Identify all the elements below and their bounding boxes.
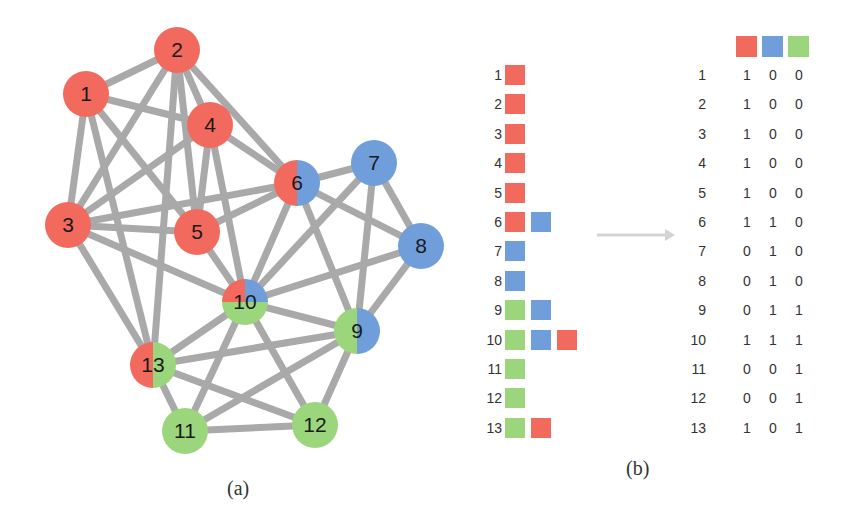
swatch-red [505,65,525,85]
matrix-cell: 0 [760,420,786,436]
swatch-red [531,418,551,438]
node-id: 7 [478,243,502,259]
matrix-cell: 1 [734,214,760,230]
node-id: 9 [478,302,502,318]
matrix-cell: 0 [734,361,760,377]
matrix-row: 6110 [682,211,822,233]
matrix-node-id: 3 [682,126,706,142]
caption-b: (b) [626,457,649,480]
matrix-node-id: 12 [682,390,706,406]
matrix-cell: 0 [760,390,786,406]
swatch-red [557,330,577,350]
matrix-node-id: 4 [682,155,706,171]
matrix-row: 1100 [682,64,822,86]
swatch-green [505,300,525,320]
node-label: 12 [303,413,326,436]
edge-7-9 [357,163,374,331]
node-6: 6 [274,160,320,206]
matrix-cell: 1 [734,420,760,436]
membership-row: 1 [478,64,531,86]
membership-row: 3 [478,123,531,145]
matrix-row: 3100 [682,123,822,145]
matrix-cell: 0 [786,126,812,142]
matrix-cell: 1 [734,155,760,171]
matrix-cell: 1 [786,420,812,436]
node-5: 5 [174,209,220,255]
matrix-cell: 0 [786,155,812,171]
matrix-row: 7010 [682,240,822,262]
node-2: 2 [154,27,200,73]
matrix-cell: 1 [786,302,812,318]
matrix-cell: 0 [734,302,760,318]
matrix-node-id: 10 [682,332,706,348]
node-label: 11 [174,419,196,442]
node-id: 13 [478,420,502,436]
matrix-cell: 1 [734,126,760,142]
matrix-row: 4100 [682,152,822,174]
membership-row: 2 [478,93,531,115]
node-10: 10 [222,279,268,325]
matrix-node-id: 13 [682,420,706,436]
matrix-node-id: 7 [682,243,706,259]
node-id: 1 [478,67,502,83]
matrix-cell: 1 [760,273,786,289]
matrix-node-id: 5 [682,185,706,201]
swatch-green [505,330,525,350]
swatch-blue [531,300,551,320]
membership-row: 5 [478,182,531,204]
matrix-cell: 0 [734,243,760,259]
matrix-cell: 1 [786,332,812,348]
matrix-cell: 0 [760,96,786,112]
header-swatch-red [736,36,757,57]
matrix-node-id: 8 [682,273,706,289]
matrix-cell: 0 [786,214,812,230]
node-7: 7 [351,140,397,186]
matrix-cell: 1 [734,96,760,112]
matrix-row: 8010 [682,270,822,292]
matrix-cell: 0 [734,390,760,406]
network-graph: 12345678910111213 [0,0,480,470]
matrix-node-id: 1 [682,67,706,83]
node-11: 11 [162,408,208,454]
matrix-cell: 1 [786,390,812,406]
membership-row: 12 [478,387,531,409]
matrix-node-id: 2 [682,96,706,112]
node-8: 8 [398,223,444,269]
node-label: 3 [62,213,74,236]
swatch-blue [505,241,525,261]
matrix-cell: 1 [760,214,786,230]
node-label: 9 [351,319,363,342]
swatch-red [505,153,525,173]
swatch-blue [531,212,551,232]
node-label: 6 [291,171,303,194]
swatch-red [505,212,525,232]
node-id: 5 [478,185,502,201]
matrix-cell: 0 [734,273,760,289]
swatch-red [505,183,525,203]
swatch-green [505,359,525,379]
swatch-green [505,418,525,438]
membership-row: 9 [478,299,557,321]
arrow-icon [597,228,677,242]
graph-edges [68,50,421,431]
matrix-cell: 0 [760,155,786,171]
matrix-header [736,36,814,57]
membership-row: 8 [478,270,531,292]
matrix-cell: 0 [786,185,812,201]
node-label: 8 [415,234,427,257]
matrix-cell: 1 [734,67,760,83]
swatch-red [505,124,525,144]
membership-row: 4 [478,152,531,174]
matrix-cell: 0 [760,361,786,377]
matrix-row: 9011 [682,299,822,321]
matrix-cell: 0 [786,243,812,259]
caption-a: (a) [227,477,249,500]
node-id: 3 [478,126,502,142]
matrix-cell: 0 [760,67,786,83]
node-id: 8 [478,273,502,289]
matrix-cell: 0 [786,96,812,112]
node-label: 1 [80,82,92,105]
node-id: 4 [478,155,502,171]
node-id: 6 [478,214,502,230]
node-label: 2 [171,38,183,61]
